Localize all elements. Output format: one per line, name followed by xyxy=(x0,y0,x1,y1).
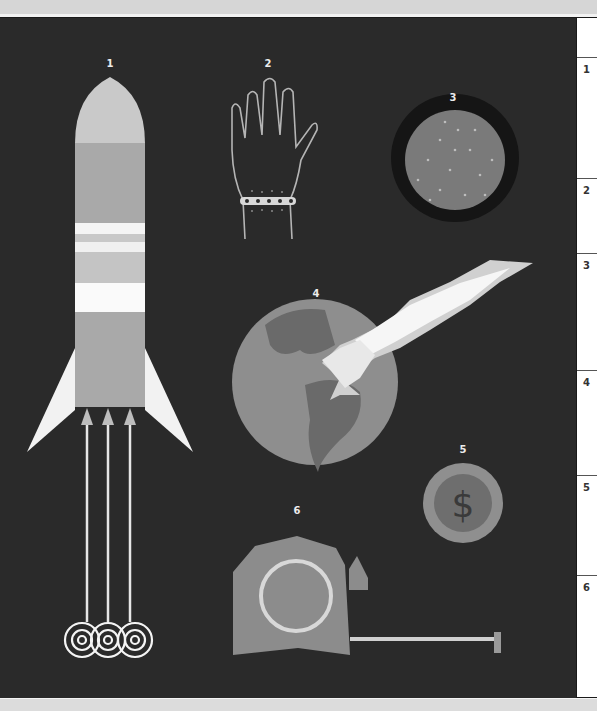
bracelet-icon xyxy=(240,190,296,212)
legend-label: 6 xyxy=(583,582,590,593)
legend-row-2: 2 xyxy=(577,178,597,253)
legend-label: 4 xyxy=(583,377,590,388)
legend-row-5: 5 xyxy=(577,475,597,575)
illustration-panel: $ 1 2 3 4 5 6 xyxy=(0,18,576,698)
item-number-1: 1 xyxy=(107,58,114,69)
item-number-3: 3 xyxy=(450,92,457,103)
legend-row-3: 3 xyxy=(577,253,597,370)
item-number-2: 2 xyxy=(265,58,272,69)
item-number-6: 6 xyxy=(294,505,301,516)
item-number-5: 5 xyxy=(460,444,467,455)
svg-text:$: $ xyxy=(452,484,475,525)
rocket-icon xyxy=(27,77,193,657)
bottom-bar xyxy=(0,699,597,711)
tape-measure-icon xyxy=(233,536,501,655)
disc-icon xyxy=(391,94,519,222)
legend-label: 1 xyxy=(583,64,590,75)
legend-row-4: 4 xyxy=(577,370,597,475)
legend-row-6: 6 xyxy=(577,575,597,698)
legend-label: 3 xyxy=(583,260,590,271)
hand-icon xyxy=(232,79,317,240)
item-number-4: 4 xyxy=(313,288,320,299)
legend-header xyxy=(577,18,597,57)
legend-panel: 1 2 3 4 5 6 xyxy=(577,18,597,697)
top-bar xyxy=(0,0,597,14)
legend-row-1: 1 xyxy=(577,57,597,178)
dollar-coin-icon: $ xyxy=(423,463,503,543)
legend-label: 2 xyxy=(583,185,590,196)
illustration-canvas: $ xyxy=(0,18,576,698)
earth-icon xyxy=(232,299,398,472)
legend-label: 5 xyxy=(583,482,590,493)
